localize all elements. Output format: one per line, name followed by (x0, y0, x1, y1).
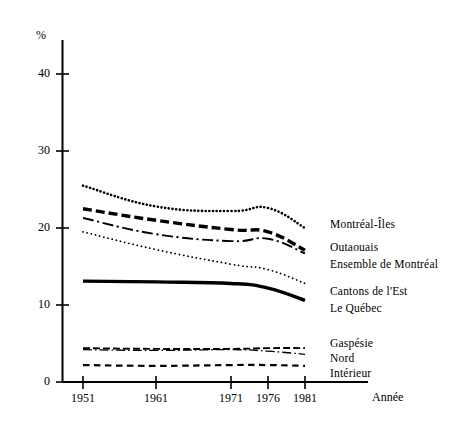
series-line (83, 350, 305, 355)
y-tick-label: 30 (10, 143, 50, 158)
legend-label-3: Ensemble de Montréal (330, 258, 438, 270)
series-line (83, 209, 305, 251)
chart-figure: % Année 010203040 19511961197119761981 M… (0, 0, 455, 422)
series-line (83, 218, 305, 253)
y-tick-label: 0 (10, 374, 50, 389)
legend-label-8: Intérieur (330, 367, 371, 379)
y-axis-unit-label: % (36, 28, 46, 43)
series-line (83, 281, 305, 300)
legend-label-5: Le Québec (330, 302, 382, 314)
y-tick-label: 10 (10, 297, 50, 312)
chart-plot-area (0, 0, 455, 422)
series-line (83, 186, 305, 228)
x-axis-caption: Année (372, 390, 403, 405)
legend-label-7: Nord (330, 352, 354, 364)
axis-lines (63, 40, 369, 382)
legend-label-6: Gaspésie (330, 337, 373, 349)
data-series-group (83, 186, 305, 366)
x-tick-label: 1961 (131, 391, 181, 406)
y-tick-label: 40 (10, 66, 50, 81)
series-line (83, 365, 305, 366)
y-tick-label: 20 (10, 220, 50, 235)
x-tick-label: 1981 (280, 391, 330, 406)
legend-label-4: Cantons de l'Est (330, 285, 407, 297)
legend-label-1: Montréal-Îles (330, 218, 395, 230)
series-line (83, 348, 305, 349)
legend-label-2: Outaouais (330, 241, 378, 253)
x-tick-label: 1951 (58, 391, 108, 406)
